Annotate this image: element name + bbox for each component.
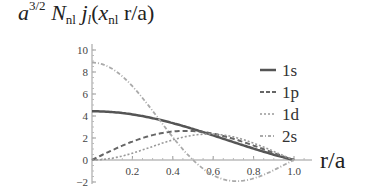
x-tick-label: 1.0 — [287, 165, 301, 177]
y-tick-label: 6 — [83, 88, 89, 100]
legend-item-2s: 2s — [260, 127, 297, 146]
y-tick-label: 8 — [83, 66, 89, 78]
x-tick-label: 0.8 — [247, 165, 261, 177]
curve-2s — [92, 63, 294, 182]
y-ticks: 1086420−2 — [76, 44, 96, 188]
legend-label: 2s — [282, 127, 297, 146]
x-ticks: 0.20.40.60.81.0 — [102, 156, 304, 177]
y-tick-label: 2 — [83, 132, 89, 144]
curves — [92, 63, 294, 182]
legend-item-1d: 1d — [260, 105, 300, 124]
y-tick-label: 10 — [77, 44, 89, 56]
legend-item-1p: 1p — [260, 83, 299, 102]
y-tick-label: −2 — [76, 176, 88, 188]
legend-item-1s: 1s — [260, 61, 297, 80]
x-axis-label: r/a — [320, 147, 346, 173]
legend-label: 1s — [282, 61, 297, 80]
x-tick-label: 0.4 — [166, 165, 180, 177]
curve-1d — [92, 134, 294, 160]
y-tick-label: 0 — [83, 154, 89, 166]
x-tick-label: 0.6 — [206, 165, 220, 177]
legend-label: 1d — [282, 105, 300, 124]
legend: 1s 1p 1d 2s — [260, 61, 300, 146]
y-tick-label: 4 — [83, 110, 89, 122]
x-tick-label: 0.2 — [126, 165, 140, 177]
legend-label: 1p — [282, 83, 299, 102]
plot-area: 1086420−2 0.20.40.60.81.0 r/a 1s 1p 1d 2… — [0, 0, 366, 196]
